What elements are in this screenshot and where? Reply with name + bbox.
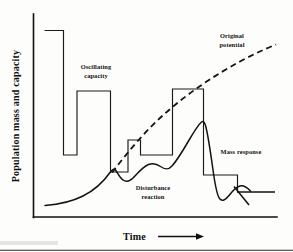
oscillating-capacity-label-line1: Oscillating	[81, 63, 112, 70]
annotation-disturbance-reaction: Disturbance reaction	[136, 184, 171, 200]
oscillating-capacity-label-line2: capacity	[84, 72, 108, 79]
population-capacity-figure: Oscillating capacity Original potential …	[0, 0, 293, 252]
figure-container: Oscillating capacity Original potential …	[0, 0, 293, 252]
annotation-oscillating-capacity: Oscillating capacity	[81, 63, 112, 79]
original-potential-label-line1: Original	[220, 32, 244, 39]
mass-response-label: Mass response	[221, 148, 262, 155]
x-axis-label: Time	[123, 231, 146, 242]
annotation-original-potential: Original potential	[219, 32, 244, 48]
original-potential-label-line2: potential	[219, 41, 244, 48]
y-axis-label-group: Population mass and capacity	[10, 50, 21, 183]
disturbance-reaction-label-line1: Disturbance	[136, 184, 171, 191]
annotation-mass-response: Mass response	[221, 148, 262, 155]
right-arrow-icon	[158, 233, 204, 239]
crossing-stroke-line	[234, 187, 249, 206]
x-axis-label-group: Time	[123, 231, 204, 242]
oscillating-capacity-step-curve	[45, 31, 238, 193]
scan-artifacts	[0, 241, 58, 245]
disturbance-reaction-label-line2: reaction	[141, 193, 164, 200]
y-axis-label: Population mass and capacity	[10, 50, 21, 183]
